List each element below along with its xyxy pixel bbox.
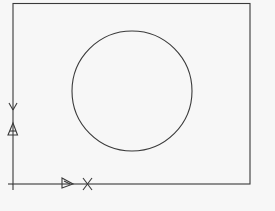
ucs-icon [8,103,92,190]
x-arrow-icon [62,178,73,188]
drawing-svg: X Y [0,0,275,211]
drawing-canvas: X Y [0,0,275,211]
circle [72,31,192,151]
